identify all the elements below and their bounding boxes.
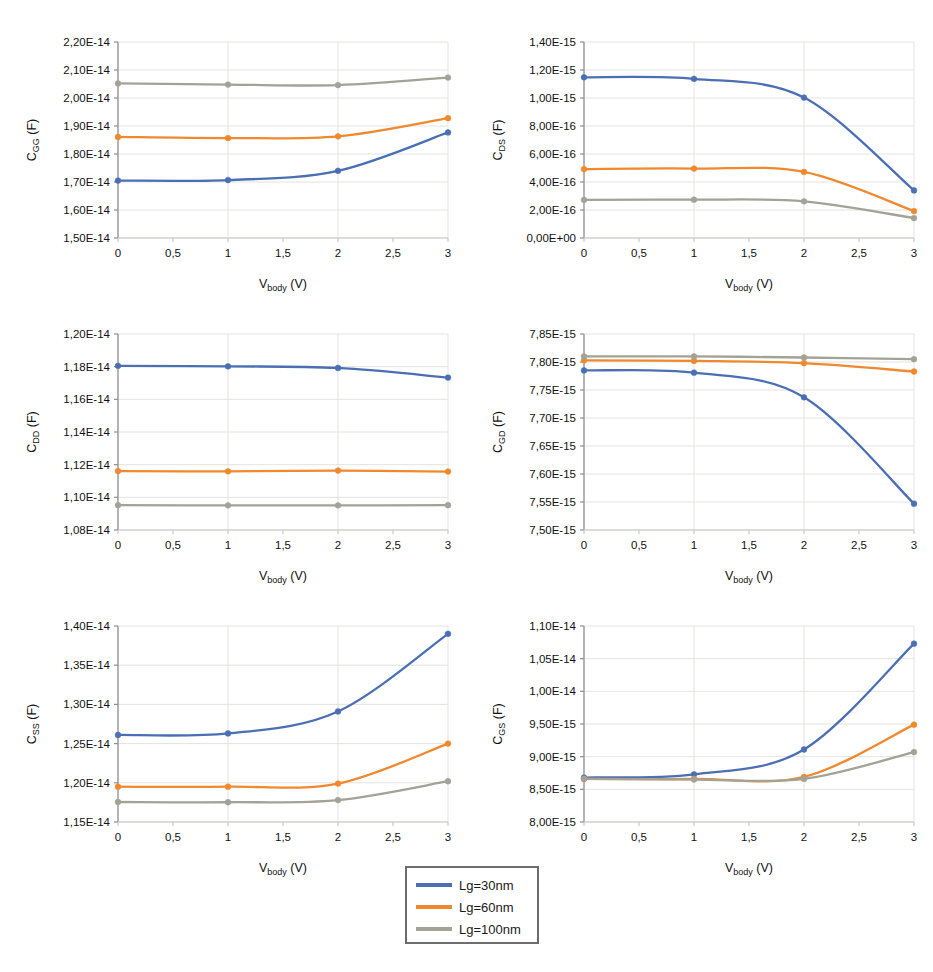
x-tick-label: 0 bbox=[581, 247, 587, 259]
x-axis-ticks: 00,511,522,53 bbox=[581, 238, 917, 259]
data-point bbox=[445, 115, 451, 121]
x-tick-label: 1,5 bbox=[741, 831, 757, 843]
data-point bbox=[225, 82, 231, 88]
series-lg100nm bbox=[115, 75, 451, 88]
legend-label-lg100: Lg=100nm bbox=[459, 923, 521, 936]
data-point bbox=[445, 502, 451, 508]
y-tick-label: 1,25E-14 bbox=[63, 738, 110, 750]
data-point bbox=[691, 76, 697, 82]
y-tick-label: 9,00E-15 bbox=[529, 751, 576, 763]
y-axis-ticks: 7,50E-157,55E-157,60E-157,65E-157,70E-15… bbox=[529, 328, 584, 536]
x-tick-label: 1,5 bbox=[275, 247, 291, 259]
x-axis-ticks: 00,511,522,53 bbox=[115, 530, 451, 551]
y-tick-label: 2,00E-14 bbox=[63, 92, 110, 104]
x-axis-ticks: 00,511,522,53 bbox=[115, 238, 451, 259]
data-point bbox=[581, 354, 587, 360]
data-point bbox=[691, 197, 697, 203]
data-point bbox=[691, 354, 697, 360]
x-axis-ticks: 00,511,522,53 bbox=[581, 822, 917, 843]
x-tick-label: 2 bbox=[335, 831, 341, 843]
data-point bbox=[115, 81, 121, 87]
series-line bbox=[118, 781, 448, 802]
x-tick-label: 0,5 bbox=[631, 247, 647, 259]
data-point bbox=[225, 731, 231, 737]
y-axis-ticks: 0,00E+002,00E-164,00E-166,00E-168,00E-16… bbox=[526, 36, 584, 244]
x-tick-label: 1 bbox=[691, 539, 697, 551]
chart-panel-cdd: 1,08E-141,10E-141,12E-141,14E-141,16E-14… bbox=[0, 312, 466, 604]
capacitance-figure: 1,50E-141,60E-141,70E-141,80E-141,90E-14… bbox=[0, 0, 933, 972]
series-line bbox=[584, 199, 914, 218]
gridlines bbox=[118, 626, 448, 822]
y-tick-label: 7,85E-15 bbox=[529, 328, 576, 340]
y-axis-ticks: 1,08E-141,10E-141,12E-141,14E-141,16E-14… bbox=[63, 328, 118, 536]
data-point bbox=[225, 502, 231, 508]
series-line bbox=[118, 744, 448, 788]
svg-text:Vbody (V): Vbody (V) bbox=[259, 569, 307, 585]
x-axis-title: Vbody (V) bbox=[259, 277, 307, 293]
chart-panel-css: 1,15E-141,20E-141,25E-141,30E-141,35E-14… bbox=[0, 604, 466, 896]
x-tick-label: 0 bbox=[581, 831, 587, 843]
data-point bbox=[445, 631, 451, 637]
data-point bbox=[911, 641, 917, 647]
x-tick-label: 3 bbox=[911, 247, 917, 259]
data-point bbox=[115, 732, 121, 738]
y-tick-label: 7,65E-15 bbox=[529, 440, 576, 452]
series-line bbox=[584, 725, 914, 782]
y-tick-label: 1,20E-14 bbox=[63, 777, 110, 789]
y-tick-label: 1,00E-15 bbox=[529, 92, 576, 104]
x-tick-label: 2 bbox=[801, 539, 807, 551]
x-tick-label: 2 bbox=[335, 539, 341, 551]
series-lg100nm bbox=[115, 502, 451, 508]
svg-text:CDS (F): CDS (F) bbox=[491, 120, 507, 161]
svg-text:CDD (F): CDD (F) bbox=[25, 411, 41, 452]
data-point bbox=[335, 502, 341, 508]
series-lg30nm bbox=[581, 74, 917, 193]
y-axis-ticks: 1,15E-141,20E-141,25E-141,30E-141,35E-14… bbox=[63, 620, 118, 828]
data-point bbox=[911, 215, 917, 221]
x-tick-label: 0,5 bbox=[631, 539, 647, 551]
y-tick-label: 8,00E-16 bbox=[529, 120, 576, 132]
x-tick-label: 0,5 bbox=[165, 247, 181, 259]
x-tick-label: 1,5 bbox=[741, 539, 757, 551]
x-tick-label: 0 bbox=[115, 247, 121, 259]
x-tick-label: 0,5 bbox=[165, 831, 181, 843]
y-tick-label: 1,00E-14 bbox=[529, 685, 576, 697]
data-point bbox=[335, 133, 341, 139]
y-tick-label: 1,70E-14 bbox=[63, 176, 110, 188]
data-point bbox=[445, 778, 451, 784]
svg-text:Vbody (V): Vbody (V) bbox=[259, 861, 307, 877]
x-tick-label: 0 bbox=[581, 539, 587, 551]
legend-swatch-lg30 bbox=[416, 883, 452, 887]
data-point bbox=[581, 74, 587, 80]
svg-text:CGS (F): CGS (F) bbox=[491, 703, 507, 744]
chart-panel-cds: 0,00E+002,00E-164,00E-166,00E-168,00E-16… bbox=[466, 20, 932, 312]
svg-text:CGG (F): CGG (F) bbox=[25, 119, 41, 161]
series-line bbox=[118, 78, 448, 86]
x-tick-label: 2 bbox=[801, 247, 807, 259]
data-point bbox=[581, 197, 587, 203]
x-tick-label: 1 bbox=[225, 539, 231, 551]
data-point bbox=[115, 784, 121, 790]
data-point bbox=[225, 784, 231, 790]
y-axis-title: CDS (F) bbox=[491, 120, 507, 161]
data-point bbox=[115, 799, 121, 805]
gridlines bbox=[584, 626, 914, 822]
x-tick-label: 3 bbox=[445, 247, 451, 259]
series-lg60nm bbox=[115, 468, 451, 475]
y-tick-label: 8,50E-15 bbox=[529, 783, 576, 795]
y-tick-label: 7,70E-15 bbox=[529, 412, 576, 424]
x-tick-label: 2,5 bbox=[851, 247, 867, 259]
x-axis-title: Vbody (V) bbox=[725, 277, 773, 293]
x-axis-ticks: 00,511,522,53 bbox=[581, 530, 917, 551]
data-point bbox=[801, 355, 807, 361]
y-axis-title: CGS (F) bbox=[491, 703, 507, 744]
x-tick-label: 1 bbox=[225, 831, 231, 843]
y-tick-label: 1,08E-14 bbox=[63, 524, 110, 536]
x-tick-label: 2,5 bbox=[385, 831, 401, 843]
y-axis-title: CGD (F) bbox=[491, 411, 507, 453]
x-tick-label: 0,5 bbox=[165, 539, 181, 551]
x-tick-label: 1,5 bbox=[275, 831, 291, 843]
data-point bbox=[445, 469, 451, 475]
x-tick-label: 1,5 bbox=[275, 539, 291, 551]
data-point bbox=[801, 95, 807, 101]
